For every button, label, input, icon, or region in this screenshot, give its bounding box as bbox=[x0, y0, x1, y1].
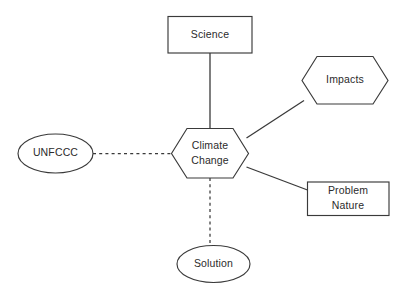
unfccc-label: UNFCCC bbox=[33, 146, 78, 158]
climate-change-label-line2: Change bbox=[191, 154, 229, 166]
edge-climate-change-to-problem-nature bbox=[247, 167, 308, 190]
concept-map-diagram: Science Impacts Climate Change UNFCCC Pr… bbox=[0, 0, 407, 297]
problem-nature-label-line2: Nature bbox=[332, 199, 364, 211]
node-unfccc[interactable]: UNFCCC bbox=[18, 134, 93, 173]
node-impacts[interactable]: Impacts bbox=[302, 57, 388, 105]
diagram-canvas: Science Impacts Climate Change UNFCCC Pr… bbox=[0, 0, 407, 297]
node-science[interactable]: Science bbox=[168, 17, 252, 54]
node-solution[interactable]: Solution bbox=[177, 246, 250, 283]
problem-nature-label-line1: Problem bbox=[328, 184, 368, 196]
edge-climate-change-to-impacts bbox=[247, 101, 305, 139]
node-climate-change[interactable]: Climate Change bbox=[172, 129, 249, 179]
impacts-label: Impacts bbox=[326, 73, 364, 85]
climate-change-label-line1: Climate bbox=[192, 139, 229, 151]
science-label: Science bbox=[191, 28, 229, 40]
solution-label: Solution bbox=[194, 257, 233, 269]
node-problem-nature[interactable]: Problem Nature bbox=[308, 182, 390, 216]
